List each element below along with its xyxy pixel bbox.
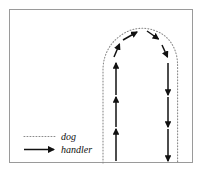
dog-path-group [103,28,178,163]
legend-item-dog: dog [24,131,76,142]
handler-arrow-arc-1 [114,44,120,57]
dog-handler-course-figure: dog handler [0,0,204,175]
handler-arrow-arc-4 [162,45,168,57]
legend-dog-label: dog [61,131,76,142]
legend-item-handler: handler [24,144,92,155]
handler-path-group [114,31,168,161]
legend-handler-label: handler [61,144,92,155]
handler-arrow-arc-3 [147,31,159,39]
legend: dog handler [24,131,92,155]
dog-path-dotted-line [103,28,178,163]
diagram-canvas: dog handler [0,0,204,175]
